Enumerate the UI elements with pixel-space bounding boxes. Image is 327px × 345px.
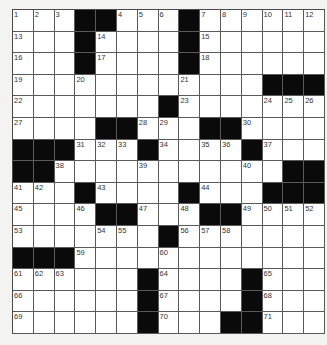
grid-cell[interactable]: 28 — [138, 118, 159, 140]
grid-cell[interactable] — [34, 226, 55, 248]
grid-cell[interactable] — [138, 53, 159, 75]
grid-cell[interactable] — [117, 248, 138, 270]
grid-cell[interactable] — [117, 96, 138, 118]
grid-cell[interactable] — [221, 291, 242, 313]
grid-cell[interactable] — [75, 269, 96, 291]
grid-cell[interactable] — [34, 32, 55, 54]
grid-cell[interactable] — [221, 161, 242, 183]
grid-cell[interactable] — [75, 312, 96, 334]
grid-cell[interactable]: 51 — [283, 204, 304, 226]
grid-cell[interactable]: 2 — [34, 10, 55, 32]
grid-cell[interactable] — [159, 53, 180, 75]
grid-cell[interactable]: 70 — [159, 312, 180, 334]
grid-cell[interactable]: 43 — [96, 183, 117, 205]
grid-cell[interactable] — [55, 53, 76, 75]
grid-cell[interactable]: 24 — [263, 96, 284, 118]
grid-cell[interactable] — [159, 161, 180, 183]
grid-cell[interactable] — [55, 291, 76, 313]
grid-cell[interactable] — [304, 269, 325, 291]
grid-cell[interactable] — [117, 32, 138, 54]
grid-cell[interactable] — [55, 312, 76, 334]
grid-cell[interactable] — [96, 161, 117, 183]
grid-cell[interactable] — [179, 140, 200, 162]
grid-cell[interactable]: 59 — [75, 248, 96, 270]
grid-cell[interactable] — [263, 53, 284, 75]
grid-cell[interactable] — [75, 226, 96, 248]
grid-cell[interactable] — [117, 312, 138, 334]
grid-cell[interactable] — [138, 226, 159, 248]
grid-cell[interactable] — [263, 161, 284, 183]
grid-cell[interactable] — [96, 75, 117, 97]
grid-cell[interactable] — [96, 312, 117, 334]
grid-cell[interactable]: 7 — [200, 10, 221, 32]
grid-cell[interactable]: 15 — [200, 32, 221, 54]
grid-cell[interactable]: 57 — [200, 226, 221, 248]
grid-cell[interactable] — [34, 291, 55, 313]
grid-cell[interactable] — [304, 140, 325, 162]
grid-cell[interactable]: 58 — [221, 226, 242, 248]
grid-cell[interactable] — [179, 161, 200, 183]
grid-cell[interactable] — [75, 118, 96, 140]
grid-cell[interactable] — [96, 248, 117, 270]
grid-cell[interactable] — [283, 118, 304, 140]
grid-cell[interactable] — [304, 248, 325, 270]
grid-cell[interactable]: 54 — [96, 226, 117, 248]
grid-cell[interactable] — [138, 248, 159, 270]
grid-cell[interactable] — [34, 118, 55, 140]
grid-cell[interactable]: 36 — [221, 140, 242, 162]
grid-cell[interactable]: 66 — [13, 291, 34, 313]
grid-cell[interactable] — [117, 75, 138, 97]
grid-cell[interactable]: 44 — [200, 183, 221, 205]
grid-cell[interactable] — [117, 291, 138, 313]
grid-cell[interactable]: 37 — [263, 140, 284, 162]
grid-cell[interactable]: 60 — [159, 248, 180, 270]
grid-cell[interactable]: 35 — [200, 140, 221, 162]
grid-cell[interactable] — [179, 291, 200, 313]
grid-cell[interactable]: 34 — [159, 140, 180, 162]
grid-cell[interactable] — [221, 53, 242, 75]
grid-cell[interactable] — [34, 204, 55, 226]
grid-cell[interactable]: 71 — [263, 312, 284, 334]
grid-cell[interactable] — [117, 53, 138, 75]
grid-cell[interactable]: 55 — [117, 226, 138, 248]
grid-cell[interactable] — [242, 248, 263, 270]
grid-cell[interactable]: 32 — [96, 140, 117, 162]
grid-cell[interactable] — [159, 75, 180, 97]
grid-cell[interactable] — [179, 269, 200, 291]
grid-cell[interactable] — [96, 269, 117, 291]
grid-cell[interactable] — [304, 118, 325, 140]
grid-cell[interactable] — [117, 183, 138, 205]
grid-cell[interactable] — [304, 312, 325, 334]
grid-cell[interactable] — [179, 248, 200, 270]
grid-cell[interactable] — [283, 140, 304, 162]
grid-cell[interactable] — [221, 248, 242, 270]
grid-cell[interactable]: 45 — [13, 204, 34, 226]
grid-cell[interactable] — [263, 248, 284, 270]
grid-cell[interactable] — [55, 226, 76, 248]
grid-cell[interactable] — [75, 161, 96, 183]
grid-cell[interactable]: 19 — [13, 75, 34, 97]
grid-cell[interactable] — [159, 204, 180, 226]
grid-cell[interactable] — [304, 226, 325, 248]
grid-cell[interactable]: 9 — [242, 10, 263, 32]
grid-cell[interactable] — [200, 312, 221, 334]
grid-cell[interactable] — [221, 96, 242, 118]
grid-cell[interactable]: 67 — [159, 291, 180, 313]
grid-cell[interactable] — [221, 269, 242, 291]
grid-cell[interactable] — [200, 75, 221, 97]
grid-cell[interactable]: 49 — [242, 204, 263, 226]
grid-cell[interactable] — [221, 183, 242, 205]
grid-cell[interactable]: 3 — [55, 10, 76, 32]
grid-cell[interactable]: 39 — [138, 161, 159, 183]
grid-cell[interactable]: 38 — [55, 161, 76, 183]
grid-cell[interactable] — [221, 75, 242, 97]
grid-cell[interactable]: 8 — [221, 10, 242, 32]
grid-cell[interactable]: 62 — [34, 269, 55, 291]
grid-cell[interactable]: 56 — [179, 226, 200, 248]
grid-cell[interactable]: 1 — [13, 10, 34, 32]
grid-cell[interactable] — [75, 291, 96, 313]
grid-cell[interactable] — [138, 32, 159, 54]
grid-cell[interactable]: 23 — [179, 96, 200, 118]
grid-cell[interactable] — [55, 75, 76, 97]
grid-cell[interactable] — [283, 53, 304, 75]
